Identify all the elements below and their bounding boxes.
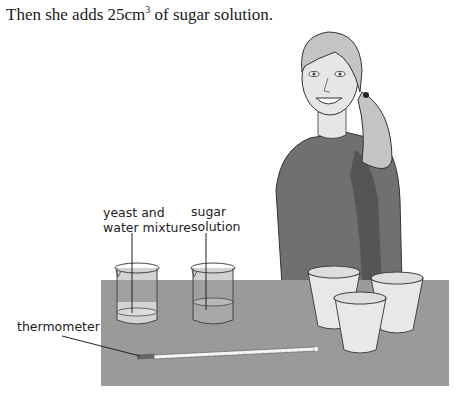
yeast-water-label: yeast and water mixture [103,205,191,235]
sugar-solution-label: sugar solution [191,204,241,234]
beaker-yeast-water [115,263,159,324]
yeast-label-line2: water mixture [103,220,191,235]
sugar-label-line2: solution [191,219,241,234]
experiment-illustration [0,0,460,401]
hair-tie [363,92,369,98]
sugar-label-line1: sugar [191,204,241,219]
beaker-sugar-solution [191,263,235,324]
right-pupil [338,72,341,75]
thermometer-label: thermometer [17,319,100,334]
student-figure [276,32,402,285]
thermometer-bulb [137,354,154,360]
left-pupil [312,72,315,75]
yeast-label-line1: yeast and [103,205,191,220]
ponytail [358,92,392,169]
